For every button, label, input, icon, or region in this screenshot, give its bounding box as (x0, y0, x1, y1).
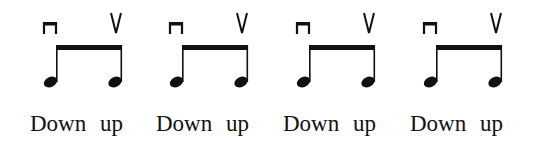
down-label: Down (410, 112, 466, 135)
stem (121, 45, 123, 82)
note-group-2: Down up (146, 0, 276, 147)
down-label: Down (283, 112, 339, 135)
up-label: up (480, 112, 503, 135)
beamed-eighth-notes (273, 0, 403, 110)
up-bow-icon (491, 13, 501, 33)
up-label: up (353, 112, 376, 135)
note-group-1: Down up (20, 0, 150, 147)
up-bow-icon (111, 13, 121, 33)
beam (56, 45, 122, 50)
up-bow-icon (364, 13, 374, 33)
beamed-eighth-notes (400, 0, 530, 110)
beamed-eighth-notes (146, 0, 276, 110)
beam (182, 45, 248, 50)
down-label: Down (30, 112, 86, 135)
down-label: Down (156, 112, 212, 135)
down-bow-icon (424, 22, 436, 34)
stem (309, 45, 311, 82)
down-bow-icon (44, 22, 56, 34)
stem (501, 45, 503, 82)
beam (436, 45, 502, 50)
note-group-4: Down up (400, 0, 530, 147)
beam (309, 45, 375, 50)
up-bow-icon (237, 13, 247, 33)
beamed-eighth-notes (20, 0, 150, 110)
stem (374, 45, 376, 82)
stem (56, 45, 58, 82)
up-label: up (226, 112, 249, 135)
down-bow-icon (297, 22, 309, 34)
up-label: up (100, 112, 123, 135)
down-bow-icon (170, 22, 182, 34)
stem (436, 45, 438, 82)
stem (247, 45, 249, 82)
stem (182, 45, 184, 82)
note-group-3: Down up (273, 0, 403, 147)
